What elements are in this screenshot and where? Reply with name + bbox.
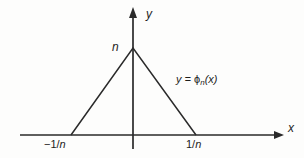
left-root-var: n	[60, 138, 66, 150]
right-root-var: n	[195, 138, 201, 150]
right-root-value: 1/	[186, 138, 195, 150]
figure-container: y x n −1/n 1/n y = ϕn(x)	[0, 0, 304, 158]
function-argument: (x)	[205, 73, 218, 85]
left-root-sign: −1/	[44, 138, 60, 150]
function-lhs: y =	[176, 73, 194, 85]
x-axis-label: x	[288, 122, 294, 134]
function-equation-label: y = ϕn(x)	[176, 74, 218, 87]
plot-canvas	[0, 0, 304, 158]
arrow-up-icon	[129, 7, 137, 18]
peak-value-label: n	[112, 41, 119, 53]
right-root-label: 1/n	[186, 139, 201, 150]
y-axis-label: y	[146, 8, 152, 20]
left-root-label: −1/n	[44, 139, 66, 150]
arrow-right-icon	[274, 131, 284, 139]
